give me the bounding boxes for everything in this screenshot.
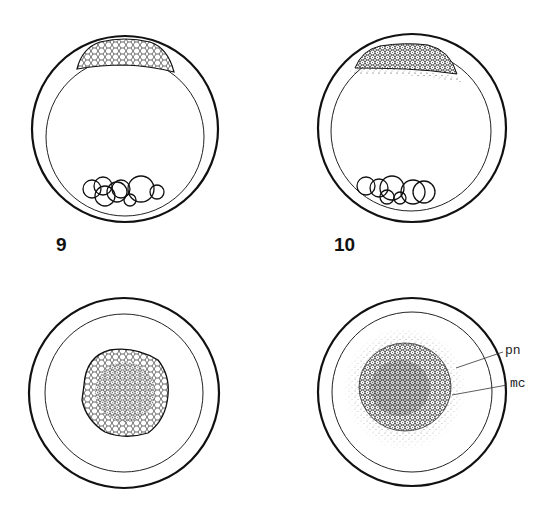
label-mc: mc [510,376,526,391]
oil-droplets [357,176,435,204]
figure-number-9: 9 [56,234,67,256]
panel-9-lateral [32,36,218,222]
figure-number-10: 10 [334,234,355,256]
panel-9-animal-view [29,298,219,488]
panel-10-animal-view [318,298,507,486]
pointer-pn [456,352,503,368]
blastoderm-cap [77,39,174,72]
embryo-figure [0,0,549,515]
label-pn: pn [505,343,521,358]
oil-droplets [83,176,164,206]
yolk-inner [46,58,204,216]
panel-10-lateral [318,34,506,222]
